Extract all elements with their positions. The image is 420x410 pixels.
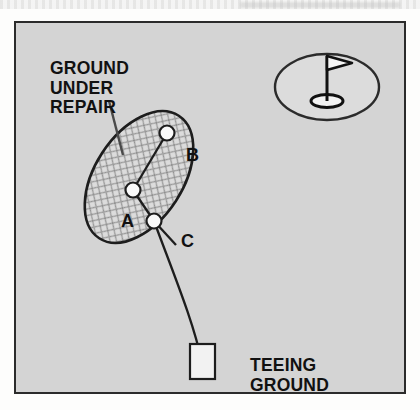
ball-marker-a bbox=[126, 183, 141, 198]
teeing-ground-label: TEEING GROUND bbox=[250, 356, 329, 395]
putting-green-group bbox=[275, 54, 379, 120]
point-label-c: C bbox=[181, 231, 194, 252]
teeing-ground-box bbox=[190, 344, 215, 379]
tee-shot-flight-path bbox=[154, 221, 202, 363]
ball-marker-c bbox=[147, 214, 162, 229]
page-bleed-text-artifact bbox=[240, 2, 400, 8]
figure-root: GROUND UNDER REPAIR TEEING GROUND A B C bbox=[0, 0, 420, 410]
page-bleed-artifact bbox=[0, 0, 420, 9]
ball-marker-b bbox=[160, 126, 175, 141]
point-label-b: B bbox=[186, 145, 199, 166]
point-label-a: A bbox=[121, 211, 134, 232]
ground-under-repair-label: GROUND UNDER REPAIR bbox=[50, 59, 129, 118]
diagram-frame: GROUND UNDER REPAIR TEEING GROUND A B C bbox=[14, 21, 406, 394]
